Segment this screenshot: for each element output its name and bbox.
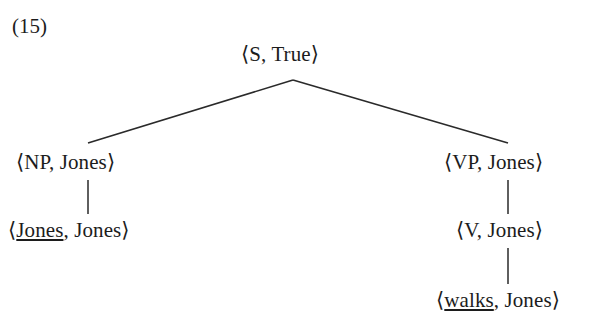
node-np-category: NP (24, 150, 49, 174)
node-v-leaf-bracket-close: ⟩ (552, 288, 560, 312)
node-vp-value: Jones (488, 150, 535, 174)
node-root-separator: , (261, 42, 271, 66)
node-root-bracket-close: ⟩ (311, 42, 319, 66)
node-np-bracket-close: ⟩ (107, 150, 115, 174)
edge-root-to-vp (293, 80, 508, 143)
node-np-leaf-bracket-close: ⟩ (121, 218, 129, 242)
node-v-value: Jones (488, 218, 535, 242)
node-np-leaf-separator: , (63, 218, 74, 242)
tree-node-v: ⟨V, Jones⟩ (456, 220, 543, 241)
node-np-leaf-value: Jones (74, 218, 121, 242)
node-v-category: V (464, 218, 477, 242)
node-v-leaf-separator: , (494, 288, 505, 312)
node-v-separator: , (477, 218, 488, 242)
tree-node-vp: ⟨VP, Jones⟩ (444, 152, 543, 173)
figure-canvas: (15) ⟨S, True⟩ ⟨NP, Jones⟩ ⟨Jones, Jones… (0, 0, 592, 330)
node-vp-bracket-close: ⟩ (535, 150, 543, 174)
tree-node-v-leaf: ⟨walks, Jones⟩ (436, 290, 560, 311)
tree-node-np: ⟨NP, Jones⟩ (16, 152, 115, 173)
node-v-leaf-value: Jones (505, 288, 552, 312)
node-v-leaf-terminal: walks (444, 288, 494, 312)
tree-node-root: ⟨S, True⟩ (241, 44, 319, 65)
node-v-bracket-close: ⟩ (535, 218, 543, 242)
node-vp-category: VP (452, 150, 477, 174)
tree-node-np-leaf: ⟨Jones, Jones⟩ (8, 220, 130, 241)
node-root-category: S (249, 42, 261, 66)
node-root-value: True (271, 42, 310, 66)
edge-root-to-np (88, 80, 293, 143)
node-np-separator: , (49, 150, 60, 174)
node-np-leaf-terminal: Jones (16, 218, 63, 242)
node-vp-separator: , (477, 150, 488, 174)
node-np-value: Jones (60, 150, 107, 174)
